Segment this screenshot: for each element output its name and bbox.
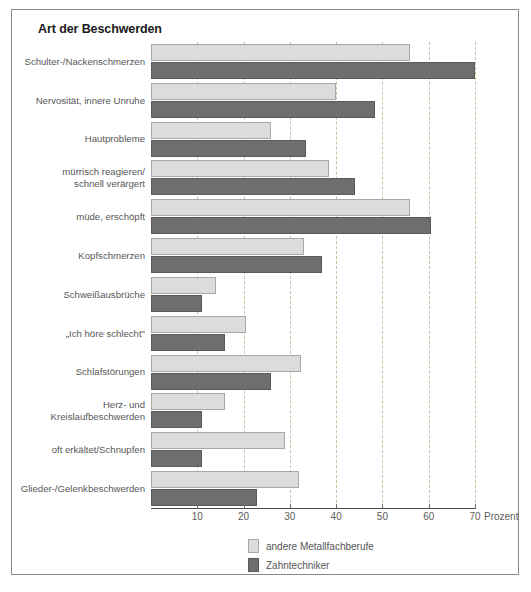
plot-area — [151, 42, 475, 508]
legend-item: Zahntechniker — [248, 557, 374, 573]
bar-zahntechniker — [151, 334, 225, 351]
category-axis-labels: Schulter-/NackenschmerzenNervosität, inn… — [12, 42, 145, 508]
category-label: oft erkältet/Schnupfen — [13, 444, 145, 456]
x-axis-line — [151, 508, 476, 509]
x-tick-label: 60 — [423, 511, 434, 522]
bar-andere-metallfachberufe — [151, 316, 246, 333]
bar-andere-metallfachberufe — [151, 393, 225, 410]
bar-andere-metallfachberufe — [151, 355, 301, 372]
category-label: „Ich höre schlecht" — [13, 328, 145, 340]
category-label: Nervosität, innere Unruhe — [13, 95, 145, 107]
bar-andere-metallfachberufe — [151, 160, 329, 177]
x-axis-unit-label: Prozent — [484, 511, 518, 522]
category-label: Schweißausbrüche — [13, 289, 145, 301]
bar-andere-metallfachberufe — [151, 238, 304, 255]
x-tick-label: 40 — [331, 511, 342, 522]
category-label: Schulter-/Nackenschmerzen — [13, 56, 145, 68]
x-tick-label: 70 — [469, 511, 480, 522]
bar-zahntechniker — [151, 62, 475, 79]
chart-frame: Art der Beschwerden Schulter-/Nackenschm… — [11, 9, 519, 575]
x-tick-label: 20 — [238, 511, 249, 522]
bar-zahntechniker — [151, 450, 202, 467]
category-label: Hautprobleme — [13, 133, 145, 145]
x-tick-mark — [429, 504, 430, 509]
x-tick-mark — [475, 504, 476, 509]
bar-zahntechniker — [151, 256, 322, 273]
bar-zahntechniker — [151, 411, 202, 428]
x-tick-label: 30 — [284, 511, 295, 522]
category-label: müde, erschöpft — [13, 211, 145, 223]
x-tick-label: 10 — [192, 511, 203, 522]
bar-andere-metallfachberufe — [151, 199, 410, 216]
legend-swatch-icon — [248, 539, 259, 553]
x-tick-label: 50 — [377, 511, 388, 522]
bar-andere-metallfachberufe — [151, 277, 216, 294]
x-tick-mark — [197, 504, 198, 509]
bar-zahntechniker — [151, 373, 271, 390]
bar-zahntechniker — [151, 217, 431, 234]
category-label: Glieder-/Gelenkbeschwerden — [13, 483, 145, 495]
category-label: mürrisch reagieren/ schnell verärgert — [13, 166, 145, 189]
category-label: Kopfschmerzen — [13, 250, 145, 262]
chart-title: Art der Beschwerden — [38, 22, 162, 36]
bar-zahntechniker — [151, 140, 306, 157]
legend-swatch-icon — [248, 558, 259, 572]
bar-andere-metallfachberufe — [151, 83, 336, 100]
category-label: Herz- und Kreislaufbeschwerden — [13, 399, 145, 422]
gridline — [429, 42, 431, 508]
bar-andere-metallfachberufe — [151, 122, 271, 139]
x-tick-mark — [244, 504, 245, 509]
gridline — [382, 42, 384, 508]
bar-andere-metallfachberufe — [151, 432, 285, 449]
x-tick-mark — [336, 504, 337, 509]
category-label: Schlafstörungen — [13, 366, 145, 378]
bar-zahntechniker — [151, 489, 257, 506]
bar-andere-metallfachberufe — [151, 471, 299, 488]
legend-label: Zahntechniker — [266, 560, 329, 571]
chart-legend: andere MetallfachberufeZahntechniker — [248, 538, 374, 576]
x-tick-mark — [382, 504, 383, 509]
legend-item: andere Metallfachberufe — [248, 538, 374, 554]
bar-zahntechniker — [151, 101, 375, 118]
x-tick-mark — [290, 504, 291, 509]
bar-zahntechniker — [151, 178, 355, 195]
bar-andere-metallfachberufe — [151, 44, 410, 61]
bar-zahntechniker — [151, 295, 202, 312]
gridline — [475, 42, 477, 508]
legend-label: andere Metallfachberufe — [266, 541, 374, 552]
